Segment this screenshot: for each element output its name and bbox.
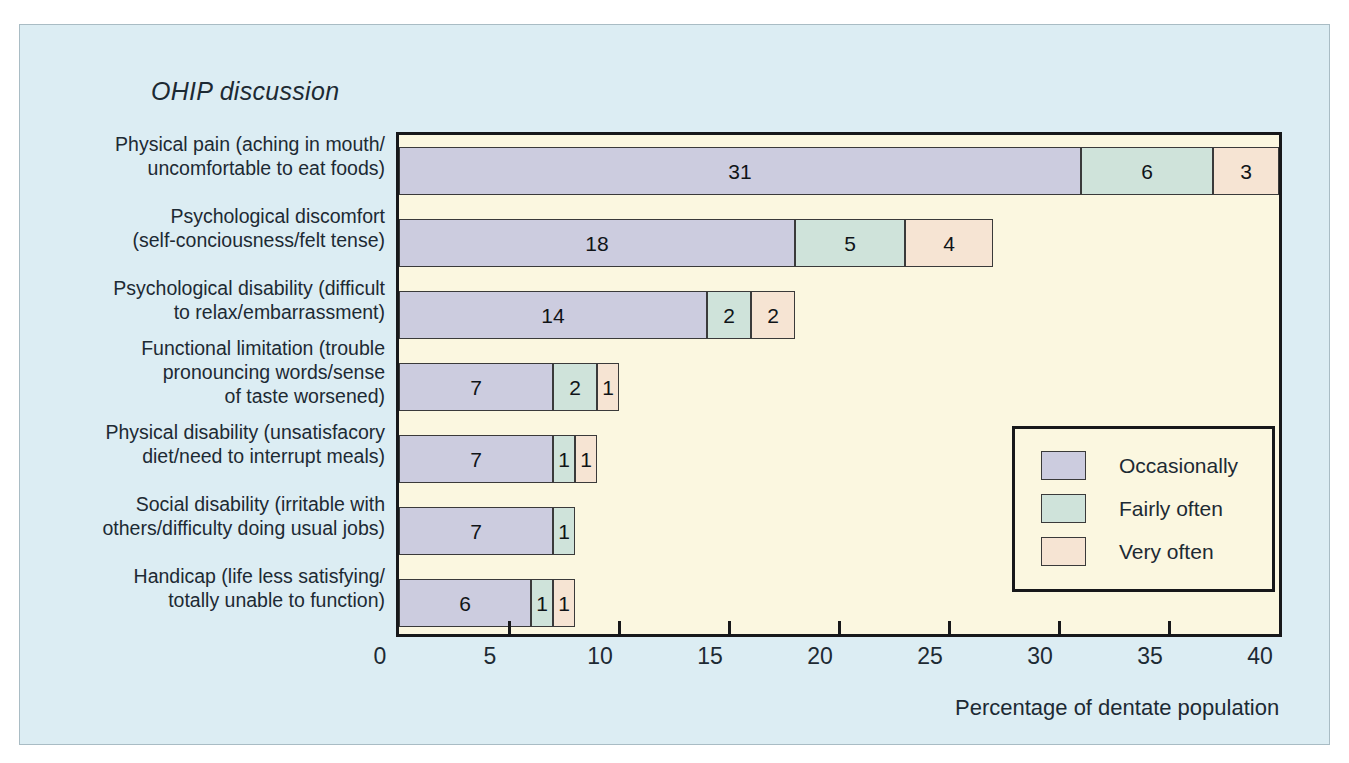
y-label-line: others/difficulty doing usual jobs) — [60, 517, 385, 541]
bar-segment: 6 — [399, 579, 531, 627]
chart-title: OHIP discussion — [151, 77, 339, 106]
y-axis-category-label: Physical disability (unsatisfacorydiet/n… — [60, 421, 385, 469]
y-label-line: Physical disability (unsatisfacory — [60, 421, 385, 445]
y-axis-category-label: Psychological discomfort(self-conciousne… — [60, 205, 385, 253]
x-tick-label: 10 — [587, 643, 613, 670]
x-tick-label: 5 — [484, 643, 497, 670]
bar-segment: 2 — [751, 291, 795, 339]
legend-label: Very often — [1119, 540, 1214, 564]
legend-swatch — [1041, 451, 1086, 480]
bar-segment: 1 — [553, 579, 575, 627]
legend-item: Fairly often — [1041, 494, 1223, 523]
y-label-line: pronouncing words/sense — [60, 361, 385, 385]
x-tick-label: 0 — [374, 643, 387, 670]
y-axis-category-label: Functional limitation (troublepronouncin… — [60, 337, 385, 408]
bar-value-label: 18 — [585, 233, 608, 254]
bar-row: 711 — [399, 435, 597, 483]
bar-segment: 1 — [575, 435, 597, 483]
bar-value-label: 1 — [536, 593, 548, 614]
y-label-line: totally unable to function) — [60, 589, 385, 613]
bar-segment: 7 — [399, 507, 553, 555]
y-label-line: of taste worsened) — [60, 385, 385, 409]
bar-segment: 1 — [531, 579, 553, 627]
bar-value-label: 2 — [767, 305, 779, 326]
bar-segment: 6 — [1081, 147, 1213, 195]
x-tick-label: 30 — [1027, 643, 1053, 670]
bar-row: 611 — [399, 579, 575, 627]
x-axis-tick — [838, 621, 841, 634]
bar-value-label: 1 — [558, 593, 570, 614]
y-label-line: (self-conciousness/felt tense) — [60, 229, 385, 253]
y-axis-category-label: Physical pain (aching in mouth/uncomfort… — [60, 133, 385, 181]
bar-segment: 3 — [1213, 147, 1279, 195]
bar-row: 721 — [399, 363, 619, 411]
bar-segment: 1 — [553, 507, 575, 555]
bar-row: 1422 — [399, 291, 795, 339]
bar-value-label: 7 — [470, 377, 482, 398]
bar-row: 71 — [399, 507, 575, 555]
bar-value-label: 1 — [602, 377, 614, 398]
bar-segment: 1 — [597, 363, 619, 411]
y-label-line: Handicap (life less satisfying/ — [60, 565, 385, 589]
bar-segment: 14 — [399, 291, 707, 339]
bar-value-label: 4 — [943, 233, 955, 254]
legend-item: Occasionally — [1041, 451, 1238, 480]
y-label-line: to relax/embarrassment) — [60, 301, 385, 325]
x-axis-tick — [1168, 621, 1171, 634]
bar-segment: 2 — [553, 363, 597, 411]
figure: OHIP discussion 31631854142272171171611 … — [0, 0, 1349, 763]
x-axis-tick — [948, 621, 951, 634]
bar-value-label: 1 — [558, 521, 570, 542]
x-axis-tick — [728, 621, 731, 634]
x-tick-label: 35 — [1137, 643, 1163, 670]
legend-item: Very often — [1041, 537, 1214, 566]
y-label-line: uncomfortable to eat foods) — [60, 157, 385, 181]
x-axis-title: Percentage of dentate population — [955, 695, 1279, 721]
legend-swatch — [1041, 494, 1086, 523]
bar-segment: 7 — [399, 363, 553, 411]
y-label-line: Functional limitation (trouble — [60, 337, 385, 361]
bar-segment: 4 — [905, 219, 993, 267]
y-label-line: Physical pain (aching in mouth/ — [60, 133, 385, 157]
bar-row: 1854 — [399, 219, 993, 267]
x-axis-tick — [618, 621, 621, 634]
bar-value-label: 6 — [1141, 161, 1153, 182]
bar-value-label: 2 — [569, 377, 581, 398]
y-label-line: Psychological discomfort — [60, 205, 385, 229]
x-axis-tick — [1058, 621, 1061, 634]
x-tick-label: 15 — [697, 643, 723, 670]
bar-value-label: 3 — [1240, 161, 1252, 182]
bar-segment: 1 — [553, 435, 575, 483]
bar-row: 3163 — [399, 147, 1279, 195]
bar-value-label: 1 — [558, 449, 570, 470]
bar-value-label: 2 — [723, 305, 735, 326]
y-axis-category-label: Handicap (life less satisfying/totally u… — [60, 565, 385, 613]
bar-segment: 7 — [399, 435, 553, 483]
y-axis-category-label: Psychological disability (difficultto re… — [60, 277, 385, 325]
bar-segment: 5 — [795, 219, 905, 267]
bar-segment: 18 — [399, 219, 795, 267]
bar-value-label: 14 — [541, 305, 564, 326]
x-tick-label: 40 — [1247, 643, 1273, 670]
chart-panel: OHIP discussion 31631854142272171171611 … — [19, 24, 1330, 745]
bar-segment: 31 — [399, 147, 1081, 195]
x-tick-label: 25 — [917, 643, 943, 670]
y-label-line: Psychological disability (difficult — [60, 277, 385, 301]
bar-value-label: 5 — [844, 233, 856, 254]
legend: OccasionallyFairly oftenVery often — [1012, 426, 1275, 592]
y-axis-category-label: Social disability (irritable withothers/… — [60, 493, 385, 541]
legend-label: Fairly often — [1119, 497, 1223, 521]
bar-value-label: 6 — [459, 593, 471, 614]
bar-value-label: 7 — [470, 449, 482, 470]
bar-value-label: 31 — [728, 161, 751, 182]
y-label-line: diet/need to interrupt meals) — [60, 445, 385, 469]
bar-value-label: 7 — [470, 521, 482, 542]
x-axis-tick — [508, 621, 511, 634]
legend-swatch — [1041, 537, 1086, 566]
bar-value-label: 1 — [580, 449, 592, 470]
x-tick-label: 20 — [807, 643, 833, 670]
y-label-line: Social disability (irritable with — [60, 493, 385, 517]
bar-segment: 2 — [707, 291, 751, 339]
legend-label: Occasionally — [1119, 454, 1238, 478]
